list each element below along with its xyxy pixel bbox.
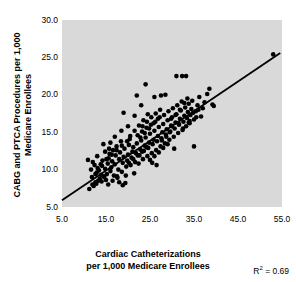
data-point	[119, 139, 124, 144]
data-point	[143, 135, 148, 140]
data-point	[174, 74, 179, 79]
data-point	[212, 104, 217, 109]
data-point	[151, 121, 156, 126]
data-point	[163, 93, 168, 98]
data-point	[192, 144, 197, 149]
data-point	[164, 134, 169, 139]
x-axis-title: Cardiac Catheterizations per 1,000 Medic…	[0, 249, 296, 272]
data-point	[161, 146, 166, 151]
data-point	[135, 93, 140, 98]
data-point	[178, 107, 183, 112]
data-point	[131, 157, 136, 162]
data-point	[126, 124, 131, 129]
x-tick-label: 55.0	[262, 215, 296, 224]
data-point	[155, 139, 160, 144]
data-point	[149, 115, 154, 120]
data-point	[100, 158, 105, 163]
data-point	[180, 74, 185, 79]
data-point	[120, 143, 125, 148]
data-point	[173, 113, 178, 118]
data-point	[150, 142, 155, 147]
data-point	[186, 101, 191, 106]
data-point	[97, 168, 102, 173]
data-point	[86, 158, 91, 163]
r-squared-annotation: R2 = 0.69	[253, 265, 289, 276]
data-point	[105, 161, 110, 166]
data-point	[161, 122, 166, 127]
data-point	[146, 112, 151, 117]
data-point	[135, 153, 140, 158]
x-tick-label: 45.0	[218, 215, 258, 224]
data-point	[147, 126, 152, 131]
data-point	[181, 126, 186, 131]
data-point	[101, 142, 106, 147]
data-point	[183, 105, 188, 110]
data-point	[102, 174, 107, 179]
data-point	[120, 170, 125, 175]
data-point	[132, 128, 137, 133]
data-point	[95, 154, 100, 159]
data-point	[172, 146, 177, 151]
y-axis-title: CABG and PTCA Procedures per 1,000 Medic…	[12, 20, 34, 210]
data-point	[143, 82, 148, 87]
data-point	[171, 134, 176, 139]
data-point	[108, 140, 113, 145]
data-point	[107, 146, 112, 151]
data-point	[113, 153, 118, 158]
data-point	[104, 157, 109, 162]
data-point	[115, 174, 120, 179]
data-point	[159, 93, 164, 98]
data-point	[166, 109, 171, 114]
data-point	[168, 130, 173, 135]
data-point	[199, 114, 204, 119]
data-point	[140, 124, 145, 129]
data-point	[145, 119, 150, 124]
scatter-chart: 5.010.015.020.025.030.0 5.015.025.035.04…	[0, 0, 296, 282]
data-point	[158, 107, 163, 112]
data-point	[157, 150, 162, 155]
data-point	[169, 116, 174, 121]
data-point	[113, 134, 118, 139]
trend-line	[62, 53, 280, 200]
data-point	[124, 164, 129, 169]
data-point	[194, 115, 199, 120]
data-point	[120, 183, 125, 188]
data-point	[153, 111, 158, 116]
x-tick-label: 5.0	[42, 215, 82, 224]
data-point	[99, 179, 104, 184]
data-point	[157, 125, 162, 130]
x-axis-ticks: 5.015.025.035.045.055.0	[0, 215, 296, 227]
data-point	[127, 161, 132, 166]
data-point	[142, 131, 147, 136]
data-point	[125, 139, 130, 144]
data-point	[171, 106, 176, 111]
data-point	[132, 113, 137, 118]
data-point	[114, 148, 119, 153]
data-point	[121, 110, 126, 115]
data-point	[89, 167, 94, 172]
data-point	[141, 157, 146, 162]
r-squared-value: = 0.69	[263, 266, 289, 276]
data-point	[197, 95, 202, 100]
data-point	[207, 87, 212, 92]
data-point	[110, 179, 115, 184]
data-point	[160, 138, 165, 143]
data-point	[117, 180, 122, 185]
data-point	[132, 171, 137, 176]
data-point	[87, 187, 92, 192]
data-point	[154, 163, 159, 168]
data-point	[145, 154, 150, 159]
data-point	[162, 113, 167, 118]
data-point	[128, 134, 133, 139]
data-point	[144, 145, 149, 150]
data-point	[148, 131, 153, 136]
data-point	[103, 149, 108, 154]
data-point	[186, 120, 191, 125]
data-point	[131, 145, 136, 150]
data-point	[190, 98, 195, 103]
data-point	[156, 116, 161, 121]
x-tick-label: 35.0	[174, 215, 214, 224]
data-point	[148, 158, 153, 163]
data-points-group	[86, 52, 276, 191]
data-point	[185, 96, 190, 101]
